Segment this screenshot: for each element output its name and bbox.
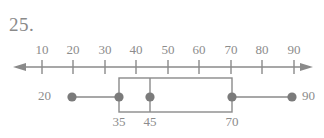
left-arrow-icon bbox=[13, 63, 26, 71]
box-plot-figure: 25. 10 20 30 40 50 60 70 80 90 20 90 35 … bbox=[0, 0, 324, 138]
plot-graphics bbox=[0, 0, 324, 138]
number-line-axis bbox=[13, 60, 313, 74]
dot-min bbox=[67, 92, 76, 101]
box-rect bbox=[119, 78, 232, 112]
dot-q1 bbox=[114, 92, 123, 101]
dot-max bbox=[287, 92, 296, 101]
dot-median bbox=[145, 92, 154, 101]
dot-q3 bbox=[227, 92, 236, 101]
right-arrow-icon bbox=[300, 63, 313, 71]
